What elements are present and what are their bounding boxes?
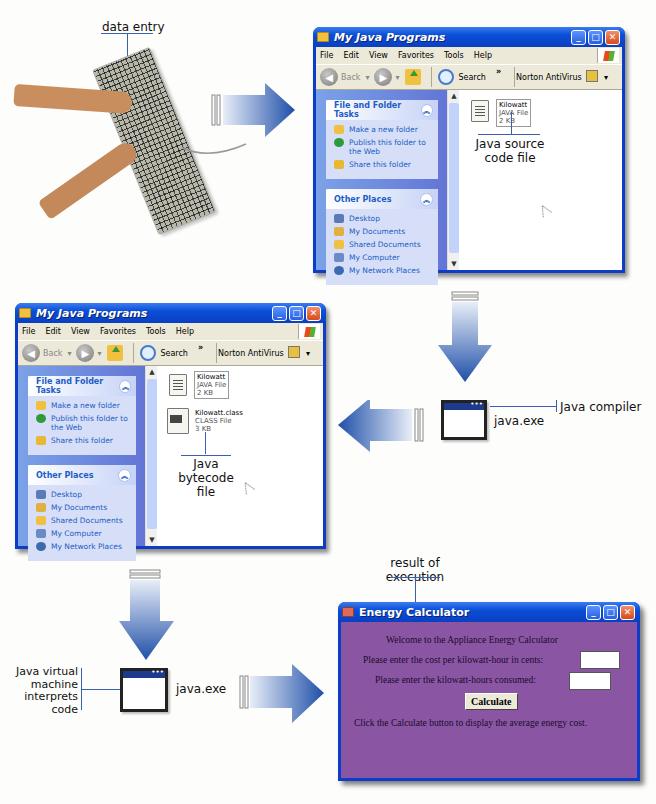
task-publish-folder[interactable]: Publish this folder to the Web <box>334 138 432 156</box>
title-bar: My Java Programs _ □ ✕ <box>313 27 625 47</box>
place-my-network-places[interactable]: My Network Places <box>334 266 432 275</box>
task-share-folder[interactable]: Share this folder <box>334 160 432 169</box>
class-file-icon[interactable] <box>167 408 189 434</box>
task-share-folder[interactable]: Share this folder <box>36 436 130 445</box>
menu-help[interactable]: Help <box>474 51 492 60</box>
maximize-button[interactable]: □ <box>603 605 618 620</box>
file-item-kilowatt-java[interactable]: Kilowatt JAVA File 2 KB <box>194 371 229 399</box>
globe-icon <box>334 138 344 147</box>
back-arrow-icon[interactable]: ◀ <box>22 344 40 362</box>
calculate-button[interactable]: Calculate <box>465 693 518 710</box>
back-arrow-icon[interactable]: ◀ <box>320 68 338 86</box>
minimize-button[interactable]: _ <box>272 306 287 321</box>
arrow-left-icon <box>335 400 425 460</box>
back-dropdown-icon[interactable]: ▾ <box>67 349 71 358</box>
menu-favorites[interactable]: Favorites <box>398 51 434 60</box>
task-pane: File and Folder Tasks︽ Make a new folder… <box>316 90 447 270</box>
desktop-icon <box>36 490 46 499</box>
window-title: Energy Calculator <box>359 606 584 619</box>
place-my-computer[interactable]: My Computer <box>334 253 432 262</box>
scroll-thumb[interactable] <box>449 103 459 253</box>
label-leader-line <box>205 432 206 454</box>
file-item-kilowatt-java[interactable]: Kilowatt JAVA File 2 KB <box>496 99 531 127</box>
collapse-chevron-icon[interactable]: ︽ <box>420 193 433 206</box>
window-title: My Java Programs <box>334 31 569 44</box>
collapse-chevron-icon[interactable]: ︽ <box>421 104 433 117</box>
network-places-icon <box>334 266 344 275</box>
scroll-thumb[interactable] <box>147 379 157 529</box>
menu-edit[interactable]: Edit <box>343 51 359 60</box>
panel-title: File and Folder Tasks <box>36 377 119 395</box>
label-data-entry: data entry <box>102 20 165 34</box>
panel-file-folder-tasks: File and Folder Tasks︽ Make a new folder… <box>326 100 438 179</box>
task-publish-folder[interactable]: Publish this folder to the Web <box>36 414 130 432</box>
toolbar-overflow-chevron[interactable]: » <box>198 343 203 352</box>
norton-icon <box>288 346 300 358</box>
forward-button[interactable]: ▶ <box>76 344 94 362</box>
vertical-scrollbar[interactable]: ▲ ▼ <box>447 90 459 270</box>
back-dropdown-icon[interactable]: ▾ <box>365 73 369 82</box>
minimize-button[interactable]: _ <box>586 605 601 620</box>
menu-file[interactable]: File <box>22 327 35 336</box>
java-file-icon[interactable] <box>471 100 489 122</box>
menu-tools[interactable]: Tools <box>146 327 166 336</box>
title-bar: My Java Programs _ □ ✕ <box>15 303 326 323</box>
windows-logo-icon <box>597 48 619 63</box>
forward-dropdown-icon[interactable]: ▾ <box>395 73 399 82</box>
menu-bar: File Edit View Favorites Tools Help <box>18 323 323 340</box>
folder-up-button[interactable] <box>405 69 421 85</box>
windows-logo-icon <box>298 324 320 339</box>
place-my-documents[interactable]: My Documents <box>36 503 130 512</box>
vertical-scrollbar[interactable]: ▲ ▼ <box>145 366 157 546</box>
network-places-icon <box>36 542 46 551</box>
place-my-documents[interactable]: My Documents <box>334 227 432 236</box>
search-icon <box>140 345 156 361</box>
collapse-chevron-icon[interactable]: ︽ <box>118 469 131 482</box>
file-list: Kilowatt JAVA File 2 KB <box>459 90 622 270</box>
search-button[interactable]: Search <box>458 73 485 82</box>
norton-antivirus-button[interactable]: Norton AntiVirus <box>218 349 284 358</box>
place-desktop[interactable]: Desktop <box>334 214 432 223</box>
menu-favorites[interactable]: Favorites <box>100 327 136 336</box>
cost-per-kwh-input[interactable] <box>580 651 620 669</box>
search-button[interactable]: Search <box>160 349 187 358</box>
file-item-kilowatt-class[interactable]: Kilowatt.class CLASS File 3 KB <box>195 409 243 433</box>
norton-dropdown-icon[interactable]: ▾ <box>604 73 608 82</box>
norton-icon <box>586 70 598 82</box>
norton-antivirus-button[interactable]: Norton AntiVirus <box>516 73 582 82</box>
menu-file[interactable]: File <box>320 51 333 60</box>
forward-dropdown-icon[interactable]: ▾ <box>97 349 101 358</box>
menu-view[interactable]: View <box>71 327 90 336</box>
task-make-new-folder[interactable]: Make a new folder <box>334 125 432 134</box>
folder-up-button[interactable] <box>107 345 123 361</box>
kwh-consumed-input[interactable] <box>569 672 611 690</box>
close-button[interactable]: ✕ <box>605 30 620 45</box>
task-pane: File and Folder Tasks︽ Make a new folder… <box>18 366 145 546</box>
menu-help[interactable]: Help <box>176 327 194 336</box>
place-shared-documents[interactable]: Shared Documents <box>334 240 432 249</box>
java-compiler-exe-icon <box>441 400 487 440</box>
norton-dropdown-icon[interactable]: ▾ <box>306 349 310 358</box>
maximize-button[interactable]: □ <box>588 30 603 45</box>
back-button[interactable]: Back <box>43 349 62 358</box>
place-my-computer[interactable]: My Computer <box>36 529 130 538</box>
toolbar-overflow-chevron[interactable]: » <box>496 67 501 76</box>
minimize-button[interactable]: _ <box>571 30 586 45</box>
place-shared-documents[interactable]: Shared Documents <box>36 516 130 525</box>
collapse-chevron-icon[interactable]: ︽ <box>119 380 131 393</box>
forward-button[interactable]: ▶ <box>374 68 392 86</box>
back-button[interactable]: Back <box>341 73 360 82</box>
place-my-network-places[interactable]: My Network Places <box>36 542 130 551</box>
my-documents-icon <box>36 503 46 512</box>
hand-lower-icon <box>38 139 141 220</box>
close-button[interactable]: ✕ <box>620 605 635 620</box>
close-button[interactable]: ✕ <box>306 306 321 321</box>
java-file-icon[interactable] <box>169 374 187 396</box>
energy-calculator-window: Energy Calculator _ □ ✕ Welcome to the A… <box>338 602 640 781</box>
maximize-button[interactable]: □ <box>289 306 304 321</box>
place-desktop[interactable]: Desktop <box>36 490 130 499</box>
menu-tools[interactable]: Tools <box>444 51 464 60</box>
task-make-new-folder[interactable]: Make a new folder <box>36 401 130 410</box>
menu-edit[interactable]: Edit <box>45 327 61 336</box>
menu-view[interactable]: View <box>369 51 388 60</box>
